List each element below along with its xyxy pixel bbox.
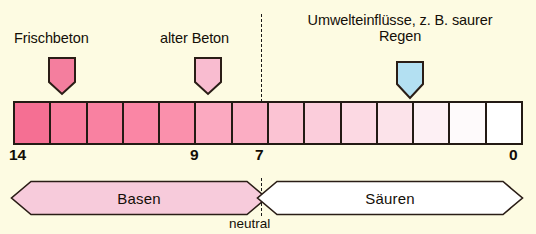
ph-cell-4 — [378, 103, 414, 143]
ph-cell-1 — [487, 103, 521, 143]
ph-cell-8 — [233, 103, 269, 143]
ph-scale-bar — [13, 101, 523, 145]
ph-cell-9 — [196, 103, 232, 143]
down-pointer-icon-frischbeton — [47, 56, 77, 96]
ph-cell-11 — [124, 103, 160, 143]
neutral-divider-line-upper — [261, 14, 262, 102]
ph-cell-13 — [51, 103, 87, 143]
axis-tick-0: 0 — [509, 146, 518, 163]
axis-tick-7: 7 — [255, 146, 264, 163]
neutral-label: neutral — [229, 216, 270, 231]
ph-cell-14 — [15, 103, 51, 143]
ph-cell-7 — [269, 103, 305, 143]
ph-scale-figure: Frischbeton alter Beton Umwelteinflüsse,… — [0, 0, 536, 234]
callout-label-umwelteinfluesse: Umwelteinflüsse, z. B. saurer Regen — [296, 12, 504, 44]
axis-tick-9: 9 — [190, 146, 199, 163]
down-pointer-icon-alter-beton — [193, 56, 223, 96]
ph-cell-10 — [160, 103, 196, 143]
range-band-basen: Basen — [10, 180, 268, 216]
ph-cell-2 — [450, 103, 486, 143]
ph-cell-3 — [414, 103, 450, 143]
axis-tick-14: 14 — [9, 146, 26, 163]
ph-cell-12 — [88, 103, 124, 143]
range-band-sauren: Säuren — [256, 180, 524, 216]
ph-cell-6 — [305, 103, 341, 143]
down-pointer-icon-umwelteinfluesse — [395, 60, 425, 100]
ph-cell-5 — [342, 103, 378, 143]
callout-label-alter-beton: alter Beton — [160, 30, 229, 46]
callout-label-frischbeton: Frischbeton — [14, 30, 89, 46]
